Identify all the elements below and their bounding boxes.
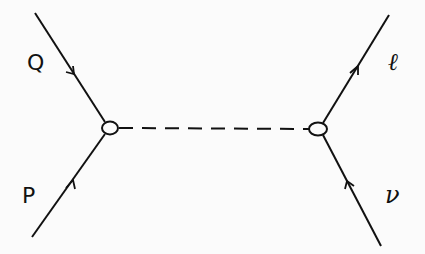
line-incoming-nu [323,135,381,246]
left-vertex [102,122,118,135]
label-nu: ν [385,181,400,209]
right-vertex [309,123,327,136]
feynman-diagram: Q P ℓ ν [0,0,425,254]
label-P: P [22,183,35,208]
label-Q: Q [27,50,44,75]
propagator-dashed-line [119,128,309,129]
line-outgoing-l [323,15,389,123]
line-outgoing-Q [35,13,105,122]
label-l: ℓ [388,48,398,76]
line-incoming-P [32,134,105,237]
